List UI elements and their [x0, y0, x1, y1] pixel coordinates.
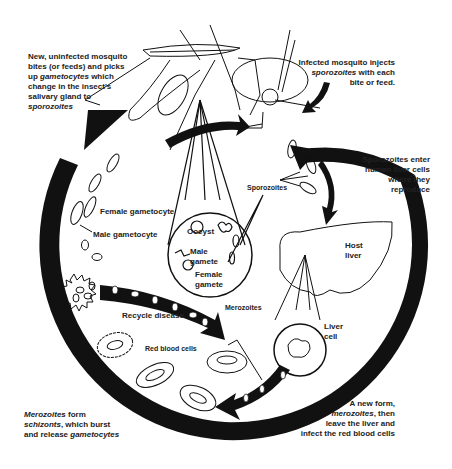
host-liver: [274, 222, 392, 376]
label-host-liver: Host liver: [345, 241, 363, 261]
label-male-gamete: Male gamete: [190, 247, 218, 267]
label-merozoites: Merozoites: [225, 303, 262, 313]
label-oocyst: Oocyst: [187, 227, 214, 237]
caption-new-form: A new form, merozoites, then leave the l…: [300, 399, 395, 439]
label-female-gametocyte: Female gametocyte: [100, 207, 174, 217]
arrowhead-upper-left: [84, 110, 128, 150]
caption-new-mosquito: New, uninfected mosquito bites (or feeds…: [28, 52, 138, 112]
caption-merozoites-form: Merozoites form schizonts, which burst a…: [24, 410, 134, 440]
label-recycle-disease: Recycle disease: [122, 311, 184, 321]
label-female-gamete: Female gamete: [195, 270, 223, 290]
label-sporozoites: Sporozoites: [247, 183, 287, 193]
label-male-gametocyte: Male gametocyte: [93, 230, 157, 240]
caption-infected-mosquito: Infected mosquito injects sporozoites wi…: [295, 58, 395, 88]
arrow-sporozoites-to-liver: [318, 160, 338, 225]
caption-sporozoites-enter: Sporozoites enter human liver cells wher…: [350, 155, 430, 195]
label-red-blood-cells: Red blood cells: [145, 344, 197, 354]
label-liver-cell: Liver cell: [324, 322, 343, 342]
arrow-to-mosquito: [165, 114, 250, 148]
